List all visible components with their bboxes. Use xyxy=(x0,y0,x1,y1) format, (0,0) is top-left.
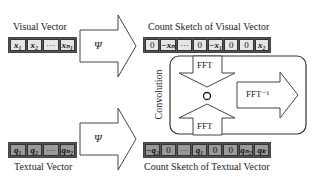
sketch-cell: 0 xyxy=(208,144,223,156)
textual-sketch-label: Count Sketch of Textual Vector xyxy=(144,161,270,172)
vector-cell: ··· xyxy=(43,39,59,51)
sketch-cell: qₖ xyxy=(254,144,269,156)
vector-cell: qₙ₂ xyxy=(60,144,76,156)
sketch-cell: ··· xyxy=(177,144,192,156)
sketch-cell: −x₁ xyxy=(208,39,223,51)
vector-cell: x₁ xyxy=(10,39,26,51)
fft-top-label: FFT xyxy=(197,60,213,70)
vector-cell: xₙ₁ xyxy=(60,39,76,51)
sketch-cell: q₁ xyxy=(192,144,207,156)
sketch-cell: 0 xyxy=(145,39,159,51)
psi-arrow-bottom xyxy=(80,108,136,170)
convolution-label: Convolution xyxy=(153,65,164,125)
sketch-cell: 0 xyxy=(224,39,238,51)
visual-count-sketch: 0 −xₙ ··· 0 −x₁ 0 0 x₂ xyxy=(143,37,271,53)
psi-arrow-top xyxy=(80,15,136,77)
vector-cell: ··· xyxy=(43,144,59,156)
sketch-cell: −q₂ xyxy=(145,144,160,156)
vector-cell: q₂ xyxy=(27,144,43,156)
sketch-cell: x₂ xyxy=(255,39,269,51)
sketch-cell: ··· xyxy=(177,39,191,51)
visual-sketch-label: Count Sketch of Visual Vector xyxy=(148,21,269,32)
ifft-label: FFT⁻¹ xyxy=(246,89,269,99)
sketch-cell: 0 xyxy=(161,144,176,156)
sketch-cell: qₙ₂ xyxy=(239,144,254,156)
vector-cell: q₁ xyxy=(10,144,26,156)
sketch-cell: −xₙ xyxy=(160,39,176,51)
psi-label-bottom: Ψ xyxy=(94,132,102,144)
sketch-cell: 0 xyxy=(223,144,238,156)
psi-label-top: Ψ xyxy=(94,39,102,51)
visual-vector-label: Visual Vector xyxy=(13,21,67,32)
visual-vector: x₁ x₂ ··· xₙ₁ xyxy=(8,37,77,53)
textual-vector-label: Textual Vector xyxy=(14,161,72,172)
sketch-cell: 0 xyxy=(193,39,207,51)
textual-count-sketch: −q₂ 0 ··· q₁ 0 0 qₙ₂ qₖ xyxy=(143,142,271,158)
fft-bottom-label: FFT xyxy=(197,121,213,131)
vector-cell: x₂ xyxy=(27,39,43,51)
sketch-cell: 0 xyxy=(239,39,253,51)
textual-vector: q₁ q₂ ··· qₙ₂ xyxy=(8,142,77,158)
